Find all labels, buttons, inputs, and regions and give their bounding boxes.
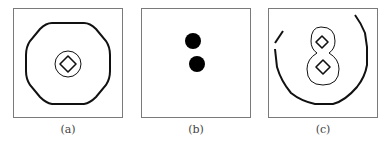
figure-panel-a <box>13 8 123 118</box>
dot-plot-b <box>142 9 250 117</box>
dot-lower <box>189 56 205 72</box>
dot-upper <box>185 33 201 49</box>
caption-a: (a) <box>13 123 123 136</box>
contour-plot-a <box>14 9 122 117</box>
contour-plot-c <box>269 9 377 117</box>
figure-panel-c <box>268 8 378 118</box>
caption-b: (b) <box>141 123 251 136</box>
figure-panel-b <box>141 8 251 118</box>
caption-c: (c) <box>268 123 378 136</box>
